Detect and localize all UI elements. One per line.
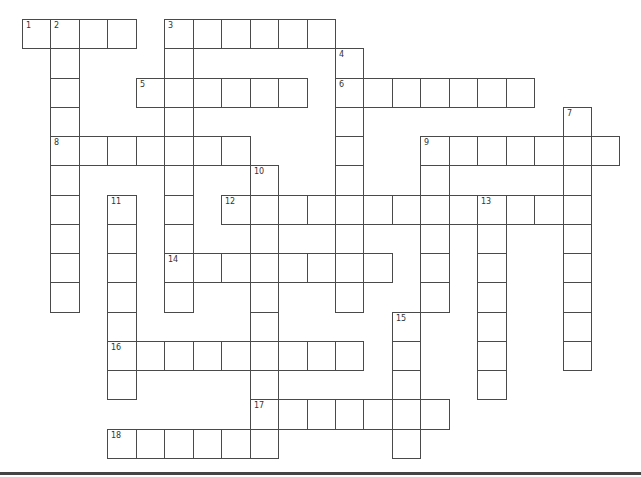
cell-letter-input[interactable] xyxy=(279,400,307,429)
crossword-cell[interactable] xyxy=(563,312,592,342)
cell-letter-input[interactable] xyxy=(279,20,307,48)
crossword-cell[interactable] xyxy=(107,282,137,313)
crossword-cell[interactable] xyxy=(221,136,251,166)
cell-letter-input[interactable] xyxy=(251,79,278,107)
crossword-cell[interactable] xyxy=(193,429,222,459)
cell-letter-input[interactable] xyxy=(251,166,278,195)
cell-letter-input[interactable] xyxy=(336,254,363,282)
crossword-cell[interactable] xyxy=(221,341,251,371)
crossword-cell[interactable] xyxy=(477,78,507,108)
cell-letter-input[interactable] xyxy=(165,166,193,195)
crossword-cell[interactable] xyxy=(420,78,450,108)
cell-letter-input[interactable] xyxy=(251,430,278,458)
cell-letter-input[interactable] xyxy=(222,20,250,48)
cell-letter-input[interactable] xyxy=(222,342,250,370)
crossword-cell[interactable] xyxy=(563,165,592,196)
cell-letter-input[interactable] xyxy=(251,225,278,253)
cell-letter-input[interactable] xyxy=(51,225,79,253)
crossword-cell[interactable] xyxy=(193,136,222,166)
crossword-cell[interactable] xyxy=(107,19,137,49)
cell-letter-input[interactable] xyxy=(564,108,591,136)
crossword-cell[interactable] xyxy=(107,136,137,166)
crossword-cell[interactable] xyxy=(335,282,364,313)
cell-letter-input[interactable] xyxy=(279,196,307,224)
cell-letter-input[interactable] xyxy=(393,400,420,429)
cell-letter-input[interactable] xyxy=(393,342,420,370)
cell-letter-input[interactable] xyxy=(165,254,193,282)
crossword-cell[interactable]: 6 xyxy=(335,78,364,108)
cell-letter-input[interactable] xyxy=(393,313,420,341)
crossword-cell[interactable] xyxy=(278,253,308,283)
cell-letter-input[interactable] xyxy=(564,196,591,224)
cell-letter-input[interactable] xyxy=(23,20,50,48)
cell-letter-input[interactable] xyxy=(478,196,506,224)
cell-letter-input[interactable] xyxy=(137,137,164,165)
crossword-cell[interactable] xyxy=(420,399,450,430)
crossword-cell[interactable] xyxy=(193,253,222,283)
crossword-cell[interactable] xyxy=(221,429,251,459)
cell-letter-input[interactable] xyxy=(194,254,221,282)
crossword-cell[interactable] xyxy=(534,136,564,166)
cell-letter-input[interactable] xyxy=(564,283,591,312)
crossword-cell[interactable] xyxy=(221,19,251,49)
crossword-cell[interactable] xyxy=(506,136,535,166)
crossword-cell[interactable] xyxy=(136,341,165,371)
cell-letter-input[interactable] xyxy=(336,342,363,370)
cell-letter-input[interactable] xyxy=(222,137,250,165)
cell-letter-input[interactable] xyxy=(51,79,79,107)
crossword-cell[interactable] xyxy=(335,399,364,430)
crossword-cell[interactable] xyxy=(136,429,165,459)
cell-letter-input[interactable] xyxy=(507,79,534,107)
crossword-cell[interactable] xyxy=(278,399,308,430)
crossword-cell[interactable] xyxy=(477,224,507,254)
cell-letter-input[interactable] xyxy=(279,254,307,282)
crossword-cell[interactable] xyxy=(420,165,450,196)
crossword-cell[interactable]: 7 xyxy=(563,107,592,137)
crossword-cell[interactable] xyxy=(335,136,364,166)
crossword-cell[interactable] xyxy=(193,19,222,49)
cell-letter-input[interactable] xyxy=(364,79,392,107)
crossword-cell[interactable]: 16 xyxy=(107,341,137,371)
cell-letter-input[interactable] xyxy=(308,20,335,48)
crossword-cell[interactable] xyxy=(534,195,564,225)
cell-letter-input[interactable] xyxy=(308,254,335,282)
crossword-cell[interactable] xyxy=(193,78,222,108)
crossword-cell[interactable] xyxy=(193,341,222,371)
crossword-cell[interactable] xyxy=(591,136,620,166)
crossword-cell[interactable] xyxy=(50,165,80,196)
crossword-cell[interactable] xyxy=(107,312,137,342)
cell-letter-input[interactable] xyxy=(165,283,193,312)
cell-letter-input[interactable] xyxy=(364,254,392,282)
cell-letter-input[interactable] xyxy=(165,430,193,458)
cell-letter-input[interactable] xyxy=(478,137,506,165)
cell-letter-input[interactable] xyxy=(421,79,449,107)
cell-letter-input[interactable] xyxy=(393,371,420,399)
cell-letter-input[interactable] xyxy=(251,20,278,48)
crossword-cell[interactable] xyxy=(363,399,393,430)
crossword-cell[interactable] xyxy=(506,78,535,108)
crossword-cell[interactable] xyxy=(563,341,592,371)
cell-letter-input[interactable] xyxy=(507,137,534,165)
crossword-cell[interactable] xyxy=(79,19,108,49)
cell-letter-input[interactable] xyxy=(251,283,278,312)
crossword-cell[interactable] xyxy=(164,165,194,196)
cell-letter-input[interactable] xyxy=(51,166,79,195)
cell-letter-input[interactable] xyxy=(308,400,335,429)
crossword-cell[interactable] xyxy=(335,165,364,196)
crossword-cell[interactable] xyxy=(392,78,421,108)
cell-letter-input[interactable] xyxy=(251,196,278,224)
crossword-cell[interactable] xyxy=(307,195,336,225)
crossword-cell[interactable] xyxy=(278,341,308,371)
cell-letter-input[interactable] xyxy=(336,283,363,312)
crossword-cell[interactable]: 13 xyxy=(477,195,507,225)
cell-letter-input[interactable] xyxy=(137,79,164,107)
crossword-cell[interactable] xyxy=(477,370,507,400)
cell-letter-input[interactable] xyxy=(80,20,107,48)
crossword-cell[interactable]: 9 xyxy=(420,136,450,166)
cell-letter-input[interactable] xyxy=(108,283,136,312)
crossword-cell[interactable] xyxy=(164,78,194,108)
crossword-cell[interactable] xyxy=(79,136,108,166)
cell-letter-input[interactable] xyxy=(478,342,506,370)
cell-letter-input[interactable] xyxy=(108,254,136,282)
crossword-cell[interactable] xyxy=(50,195,80,225)
